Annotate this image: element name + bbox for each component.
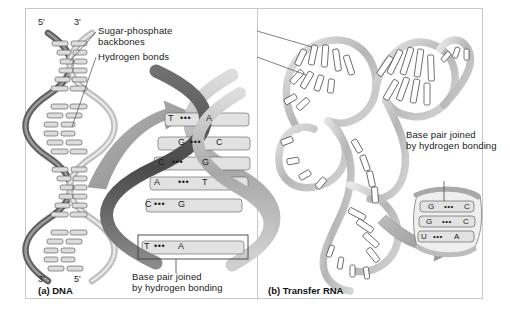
panel-dna: T ••• A G ••• C C ••• G A ••• T C ••• G … — [26, 9, 257, 300]
trna-base-pair-right-2: A — [454, 231, 459, 243]
trna-inset-note-line1: Base pair joined — [406, 129, 476, 141]
base-pair-left-1: G — [178, 137, 185, 149]
base-pair-right-1: C — [216, 137, 223, 149]
figure-root: T ••• A G ••• C C ••• G A ••• T C ••• G … — [0, 0, 510, 328]
base-pair-left-3: A — [154, 177, 160, 189]
caption-dna: (a) DNA — [38, 285, 73, 296]
trna-inset-note-line2: by hydrogen bonding — [406, 140, 497, 152]
figure-frame: T ••• A G ••• C C ••• G A ••• T C ••• G … — [25, 8, 483, 299]
label-sugar-phosphate-backbones-line2: backbones — [98, 36, 145, 48]
end-label-bottom-right: 5' — [74, 274, 81, 284]
label-hydrogen-bonds: Hydrogen bonds — [98, 51, 169, 63]
dna-large-helix — [107, 71, 275, 265]
base-pair-right-4: G — [178, 199, 185, 211]
base-pair-right-2: G — [202, 157, 209, 169]
trna-base-pair-right-1: C — [463, 216, 469, 228]
base-pair-left-5: T — [144, 241, 150, 253]
base-pair-bond-1: ••• — [190, 137, 201, 149]
end-label-top-left: 5' — [38, 17, 45, 27]
trna-base-pair-bond-2: ••• — [433, 231, 443, 243]
trna-base-pair-bond-1: ••• — [442, 216, 452, 228]
base-pair-left-0: T — [168, 113, 174, 125]
trna-base-pair-left-0: G — [428, 201, 434, 213]
panel-trna: G ••• C G ••• C U ••• A Base pair joined… — [258, 9, 483, 300]
end-label-bottom-left: 3' — [38, 274, 45, 284]
end-label-top-right: 3' — [74, 17, 81, 27]
trna-base-pair-right-0: C — [464, 201, 470, 213]
base-pair-right-3: T — [202, 177, 208, 189]
base-pair-left-4: C — [145, 199, 152, 211]
base-pair-right-5: A — [178, 241, 184, 253]
base-pair-bond-0: ••• — [180, 113, 191, 125]
dna-inset-note-line2: by hydrogen bonding — [132, 282, 223, 294]
dna-small-helix — [26, 33, 115, 281]
base-pair-bond-2: ••• — [172, 157, 183, 169]
base-pair-bond-5: ••• — [154, 241, 165, 253]
base-pair-bond-3: ••• — [178, 177, 189, 189]
base-pair-right-0: A — [206, 113, 212, 125]
label-sugar-phosphate-backbones-line1: Sugar-phosphate — [98, 25, 172, 37]
base-pair-left-2: C — [158, 157, 165, 169]
trna-artwork — [258, 9, 483, 300]
caption-trna: (b) Transfer RNA — [268, 285, 343, 296]
trna-base-pair-bond-0: ••• — [444, 201, 454, 213]
trna-base-pair-left-2: U — [421, 231, 427, 243]
trna-base-pair-left-1: G — [426, 216, 432, 228]
base-pair-bond-4: ••• — [154, 199, 165, 211]
dna-inset-note-line1: Base pair joined — [132, 271, 202, 283]
